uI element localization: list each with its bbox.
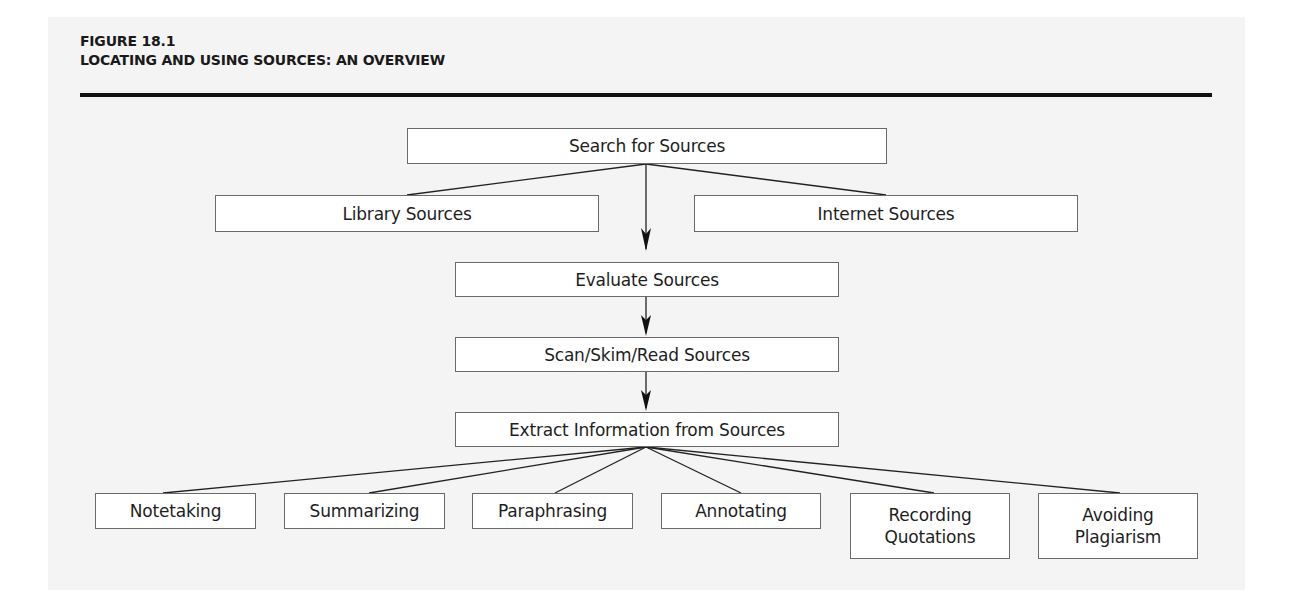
node-label: Scan/Skim/Read Sources: [544, 344, 750, 366]
edge-extract-to-recording: [646, 447, 934, 493]
node-notetaking: Notetaking: [95, 493, 256, 529]
node-label: Paraphrasing: [498, 500, 607, 522]
node-label: Extract Information from Sources: [509, 419, 785, 441]
node-recording-quotations: Recording Quotations: [850, 493, 1010, 559]
node-label: Library Sources: [342, 203, 471, 225]
node-label-line2: Plagiarism: [1075, 526, 1161, 548]
node-evaluate-sources: Evaluate Sources: [455, 262, 839, 297]
node-search-for-sources: Search for Sources: [407, 128, 887, 164]
node-avoiding-plagiarism: Avoiding Plagiarism: [1038, 493, 1198, 559]
node-label: Annotating: [695, 500, 787, 522]
node-label: Search for Sources: [569, 135, 725, 157]
node-extract-information: Extract Information from Sources: [455, 412, 839, 447]
node-label: Notetaking: [130, 500, 221, 522]
arrow-evaluate-to-scan: [641, 297, 651, 336]
node-label: Summarizing: [310, 500, 420, 522]
edge-extract-to-avoiding: [646, 447, 1120, 493]
node-paraphrasing: Paraphrasing: [472, 493, 633, 529]
node-label-line1: Avoiding: [1082, 504, 1153, 526]
edge-search-to-library: [407, 164, 646, 195]
edge-search-to-internet: [646, 164, 886, 195]
node-summarizing: Summarizing: [284, 493, 445, 529]
node-label-line2: Quotations: [884, 526, 975, 548]
arrow-scan-to-extract: [641, 372, 651, 411]
node-label: Evaluate Sources: [575, 269, 719, 291]
node-scan-skim-read-sources: Scan/Skim/Read Sources: [455, 337, 839, 372]
edge-extract-to-annotating: [646, 447, 741, 493]
node-library-sources: Library Sources: [215, 195, 599, 232]
node-internet-sources: Internet Sources: [694, 195, 1078, 232]
node-label: Internet Sources: [818, 203, 955, 225]
edge-extract-to-notetaking: [163, 447, 646, 493]
node-label-line1: Recording: [888, 504, 971, 526]
node-annotating: Annotating: [661, 493, 821, 529]
arrow-search-to-evaluate: [641, 164, 651, 251]
